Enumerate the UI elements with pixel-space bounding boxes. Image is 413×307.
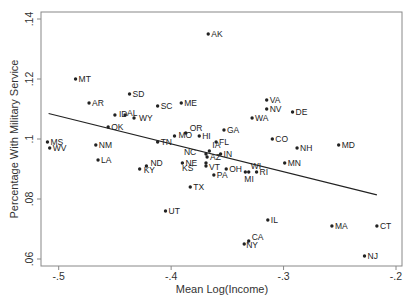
point-nh: NH (295, 143, 312, 153)
point-label: PA (217, 170, 228, 180)
marker-dot (164, 209, 167, 212)
point-label: NY (246, 240, 258, 250)
point-ut: UT (164, 206, 180, 216)
point-label: OK (111, 122, 124, 132)
marker-dot (96, 158, 99, 161)
marker-dot (94, 143, 97, 146)
marker-dot (173, 134, 176, 137)
marker-dot (250, 116, 253, 119)
point-label: UT (169, 206, 180, 216)
point-ia: IA (208, 140, 221, 153)
marker-dot (291, 110, 294, 113)
point-ct: CT (375, 221, 391, 231)
data-points: AKMTSDARMESCIDALWYOKVANVDEWAGAORMOHIMSWV… (46, 29, 391, 261)
point-tx: TX (189, 182, 205, 192)
point-label: NH (300, 143, 312, 153)
y-tick-label: .06 (23, 252, 35, 267)
marker-dot (46, 140, 49, 143)
marker-dot (74, 77, 77, 80)
point-de: DE (291, 107, 308, 117)
marker-dot (330, 224, 333, 227)
marker-dot (204, 161, 207, 164)
point-label: AK (211, 29, 223, 39)
y-tick-label: .1 (23, 134, 35, 143)
point-sc: SC (156, 101, 173, 111)
point-ar: AR (87, 98, 104, 108)
point-label: RI (260, 167, 269, 177)
point-label: MT (79, 74, 91, 84)
marker-dot (204, 164, 207, 167)
point-ak: AK (207, 29, 223, 39)
point-label: TN (161, 137, 172, 147)
point-label: CO (275, 134, 288, 144)
marker-dot (132, 116, 135, 119)
marker-dot (283, 161, 286, 164)
point-label: IN (224, 149, 233, 159)
point-label: MO (179, 130, 193, 140)
y-axis-title: Percentage With Military Service (8, 60, 20, 219)
point-label: CT (380, 221, 391, 231)
point-label: DE (296, 107, 308, 117)
marker-dot (138, 167, 141, 170)
point-label: NJ (368, 251, 378, 261)
y-axis: .06.08.1.12.14 (23, 12, 41, 267)
marker-dot (266, 218, 269, 221)
point-label: LA (101, 155, 112, 165)
point-label: SC (161, 101, 173, 111)
point-label: AR (92, 98, 104, 108)
point-label: GA (227, 125, 240, 135)
marker-dot (180, 101, 183, 104)
point-nm: NM (94, 140, 112, 150)
point-nj: NJ (363, 251, 378, 261)
point-tn: TN (156, 137, 172, 147)
marker-dot (222, 128, 225, 131)
marker-dot (265, 98, 268, 101)
point-la: LA (96, 155, 111, 165)
marker-dot (189, 185, 192, 188)
x-tick-label: -.5 (53, 270, 65, 282)
point-label: ME (184, 98, 197, 108)
marker-dot (212, 173, 215, 176)
marker-dot (156, 140, 159, 143)
marker-dot (337, 143, 340, 146)
point-ma: MA (330, 221, 348, 231)
point-label: IL (271, 215, 278, 225)
point-label: WY (139, 113, 153, 123)
point-label: NM (99, 140, 112, 150)
point-label: KY (144, 165, 156, 175)
point-co: CO (271, 134, 289, 144)
point-label: NC (184, 147, 196, 157)
point-label: MI (244, 174, 253, 184)
scatter-chart: .06.08.1.12.14 -.5-.4-.3-.2 AKMTSDARMESC… (0, 0, 413, 307)
point-ok: OK (106, 122, 123, 132)
point-me: ME (180, 98, 198, 108)
point-mt: MT (74, 74, 91, 84)
point-mo: MO (173, 130, 193, 140)
marker-dot (106, 125, 109, 128)
point-label: OH (229, 164, 242, 174)
y-tick-label: .08 (23, 192, 35, 207)
point-label: MD (342, 140, 355, 150)
marker-dot (204, 152, 207, 155)
point-label: HI (202, 131, 211, 141)
point-label: AZ (210, 152, 221, 162)
point-ny: NY (243, 240, 259, 250)
marker-dot (205, 155, 208, 158)
x-axis-title: Mean Log(Income) (176, 283, 268, 295)
marker-dot (198, 134, 201, 137)
marker-dot (375, 224, 378, 227)
x-tick-label: -.2 (390, 270, 402, 282)
point-label: AL (127, 108, 138, 118)
point-label: KS (182, 163, 194, 173)
point-label: MA (335, 221, 348, 231)
point-il: IL (266, 215, 278, 225)
point-md: MD (337, 140, 355, 150)
marker-dot (207, 32, 210, 35)
point-label: NV (270, 104, 282, 114)
x-tick-label: -.4 (165, 270, 177, 282)
point-label: WV (53, 143, 67, 153)
point-mn: MN (283, 158, 301, 168)
marker-dot (128, 92, 131, 95)
marker-dot (363, 254, 366, 257)
marker-dot (255, 170, 258, 173)
